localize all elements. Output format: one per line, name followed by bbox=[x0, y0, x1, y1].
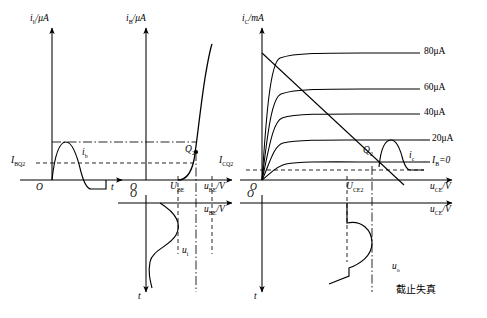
p4-ui-label: ui bbox=[182, 246, 188, 258]
figure-canvas: ib/μA O t IBQ2 ib iB/μA O uBE/V Q2 UBE i… bbox=[0, 0, 487, 318]
p4-t-axis-label: t bbox=[138, 292, 141, 302]
p2-q-point-label: Q2 bbox=[185, 145, 195, 157]
p1-x-axis-label: t bbox=[111, 183, 114, 193]
p3-y-axis-label: iC/mA bbox=[242, 14, 264, 26]
p5-origin-label: O bbox=[247, 190, 254, 200]
p5-t-axis-label: t bbox=[254, 292, 257, 302]
p4-x-axis-label: uBE/V bbox=[204, 205, 225, 217]
p4-origin-label: O bbox=[130, 190, 137, 200]
p2-y-axis-label: iB/μA bbox=[126, 14, 146, 26]
p3-uce-label: UCE2 bbox=[346, 182, 363, 194]
p4-ui-waveform bbox=[149, 203, 178, 288]
p2-x-axis-label: uBE/V bbox=[204, 182, 225, 194]
p3-curve-label-60ua: 60μA bbox=[424, 83, 445, 93]
p3-x-axis-label: uCE/V bbox=[430, 182, 451, 194]
p2-input-curve bbox=[178, 44, 212, 180]
p3-curve-80ua bbox=[262, 53, 420, 180]
p1-ib-waveform bbox=[52, 142, 106, 189]
p3-ic-waveform bbox=[379, 140, 424, 170]
p5-x-axis-label: uCE/V bbox=[430, 205, 451, 217]
figure-caption: 截止失真 bbox=[396, 285, 436, 295]
p3-curve-20ua bbox=[262, 140, 420, 180]
p1-origin-label: O bbox=[36, 183, 43, 193]
p5-uo-waveform bbox=[329, 203, 372, 284]
p3-curve-label-40ua: 40μA bbox=[424, 108, 445, 118]
p3-q-point-label: Q2 bbox=[363, 146, 373, 158]
p3-curve-label-80ua: 80μA bbox=[424, 47, 445, 57]
p1-y-axis-label: ib/μA bbox=[30, 14, 49, 26]
p3-icq-label: ICQ2 bbox=[219, 156, 233, 168]
p1-waveform-label: ib bbox=[82, 148, 88, 160]
p5-uo-label: uo bbox=[392, 262, 400, 274]
p3-curve-label-ib0: IB=0 bbox=[432, 156, 450, 168]
p1-bias-label: IBQ2 bbox=[11, 156, 25, 168]
p3-curve-label-20ua: 20μA bbox=[432, 134, 453, 144]
p3-ic-label: ic bbox=[409, 151, 414, 163]
p2-ube-label: UBE bbox=[170, 182, 184, 194]
p3-curve-60ua bbox=[262, 89, 420, 180]
